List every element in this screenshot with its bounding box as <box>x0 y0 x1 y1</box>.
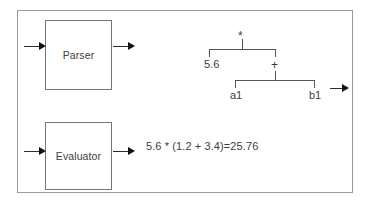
parse-tree-operand-b-node: b1 <box>309 90 321 101</box>
tree-edge-level2-left-tick <box>235 80 236 88</box>
tree-edge-level1-left-tick <box>209 49 210 57</box>
evaluator-output-arrow-icon <box>113 147 136 156</box>
arrow-shaft <box>113 151 129 152</box>
parse-tree: * 5.6 + a1 b1 <box>195 26 325 111</box>
tree-edge-level1-right-tick <box>275 49 276 57</box>
tree-edge-level2-right-tick <box>314 80 315 88</box>
arrow-shaft <box>24 151 40 152</box>
diagram-canvas: Parser Evaluator 5.6 * (1.2 + 3.4)=25.76… <box>0 0 371 203</box>
final-output-arrow-icon <box>330 84 350 93</box>
arrow-head <box>39 147 46 155</box>
tree-edge-level2-bar <box>235 80 315 81</box>
parser-box-label: Parser <box>63 49 95 61</box>
tree-edge-level1-bar <box>209 49 276 50</box>
parser-output-arrow-icon <box>113 42 136 51</box>
equation-text: 5.6 * (1.2 + 3.4)=25.76 <box>146 140 258 152</box>
arrow-shaft <box>113 46 129 47</box>
parser-box[interactable]: Parser <box>45 20 112 90</box>
parse-tree-operand-a-node: a1 <box>230 90 242 101</box>
evaluator-box[interactable]: Evaluator <box>45 122 112 190</box>
parse-tree-operator-node: + <box>271 59 278 71</box>
parser-input-arrow-icon <box>24 42 47 51</box>
evaluator-box-label: Evaluator <box>56 150 101 162</box>
arrow-head <box>39 42 46 50</box>
parse-tree-left-operand-node: 5.6 <box>204 59 219 70</box>
arrow-head <box>128 147 135 155</box>
arrow-head <box>342 84 349 92</box>
arrow-head <box>128 42 135 50</box>
arrow-shaft <box>24 46 40 47</box>
evaluator-input-arrow-icon <box>24 147 47 156</box>
